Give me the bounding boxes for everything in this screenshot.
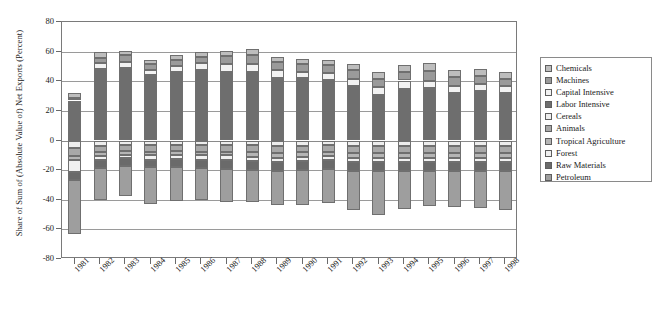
segment-machines [94,58,107,64]
bar-1984[interactable] [144,22,157,259]
bar-1982[interactable] [94,22,107,259]
segment-labor-intensive [195,70,208,140]
y-axis-tick-label: 20 [26,106,54,114]
bar-1985[interactable] [170,22,183,259]
legend-item-label: Machines [556,76,589,85]
bar-1988[interactable] [246,22,259,259]
legend-item-raw-materials[interactable]: Raw Materials [545,160,648,172]
legend-item-chemicals[interactable]: Chemicals [545,62,648,74]
legend-item-machines[interactable]: Machines [545,74,648,86]
legend-item-forest[interactable]: Forest [545,147,648,159]
segment-chemicals [271,57,284,62]
segment-chemicals [246,49,259,55]
segment-labor-intensive [372,95,385,140]
y-axis-tick-label: 0 [26,136,54,144]
y-axis-tick-label: 40 [26,76,54,84]
segment-petroleum [322,169,335,203]
segment-raw-materials [271,162,284,171]
bar-1992[interactable] [347,22,360,259]
bar-1990[interactable] [296,22,309,259]
segment-animals [372,146,385,153]
segment-raw-materials [246,161,259,170]
bar-1986[interactable] [195,22,208,259]
y-axis-title: Share of Sum of (Absolute Value of) Net … [14,8,28,258]
segment-machines [170,60,183,66]
y-axis-tick-label: -40 [26,195,54,203]
segment-capital-intensive [372,87,385,95]
segment-petroleum [372,171,385,215]
segment-chemicals [499,72,512,79]
bar-1991[interactable] [322,22,335,259]
segment-raw-materials [170,159,183,167]
segment-capital-intensive [322,73,335,80]
legend-item-label: Tropical Agriculture [556,137,625,146]
plot-area [61,21,517,258]
segment-chemicals [347,64,360,70]
segment-labor-intensive [144,75,157,140]
legend-item-petroleum[interactable]: Petroleum [545,172,648,184]
segment-raw-materials [499,162,512,171]
segment-raw-materials [296,161,309,170]
segment-animals [68,148,81,156]
y-axis-tick-label: -60 [26,224,54,232]
bar-1993[interactable] [372,22,385,259]
segment-labor-intensive [448,93,461,140]
bar-1998[interactable] [499,22,512,259]
segment-machines [322,65,335,73]
segment-petroleum [423,171,436,207]
segment-raw-materials [68,172,81,180]
segment-machines [448,77,461,86]
bar-1994[interactable] [398,22,411,259]
segment-chemicals [94,52,107,57]
segment-capital-intensive [170,66,183,72]
legend-swatch-icon [545,125,552,132]
segment-raw-materials [220,160,233,169]
legend-item-tropical-agriculture[interactable]: Tropical Agriculture [545,135,648,147]
segment-petroleum [296,170,309,205]
y-axis-tick-label: -80 [26,254,54,262]
segment-machines [68,98,81,101]
bar-1981[interactable] [68,22,81,259]
legend-item-label: Labor Intensive [556,100,610,109]
segment-animals [398,146,411,153]
legend-swatch-icon [545,89,552,96]
legend-swatch-icon [545,113,552,120]
segment-machines [499,79,512,86]
segment-machines [423,71,436,81]
segment-chemicals [322,60,335,65]
segment-labor-intensive [499,93,512,140]
legend-item-label: Forest [556,149,577,158]
legend-item-cereals[interactable]: Cereals [545,111,648,123]
segment-capital-intensive [448,86,461,93]
segment-chemicals [195,52,208,57]
segment-petroleum [246,170,259,202]
bar-1987[interactable] [220,22,233,259]
bar-1995[interactable] [423,22,436,259]
segment-petroleum [448,171,461,207]
segment-animals [296,146,309,153]
legend-swatch-icon [545,150,552,157]
bar-1989[interactable] [271,22,284,259]
legend-item-capital-intensive[interactable]: Capital Intensive [545,86,648,98]
segment-labor-intensive [220,72,233,141]
legend-item-animals[interactable]: Animals [545,123,648,135]
segment-machines [474,76,487,84]
segment-animals [448,146,461,153]
legend-item-label: Petroleum [556,173,591,182]
segment-machines [144,64,157,70]
segment-capital-intensive [94,63,107,68]
bar-1996[interactable] [448,22,461,259]
legend-swatch-icon [545,138,552,145]
segment-raw-materials [322,160,335,169]
segment-capital-intensive [195,63,208,70]
legend-item-labor-intensive[interactable]: Labor Intensive [545,99,648,111]
segment-labor-intensive [423,88,436,141]
segment-animals [347,146,360,153]
y-axis-tick-label: 60 [26,47,54,55]
segment-petroleum [220,169,233,202]
segment-capital-intensive [144,70,157,75]
segment-raw-materials [423,162,436,171]
bar-1983[interactable] [119,22,132,259]
bar-1997[interactable] [474,22,487,259]
segment-petroleum [144,167,157,204]
